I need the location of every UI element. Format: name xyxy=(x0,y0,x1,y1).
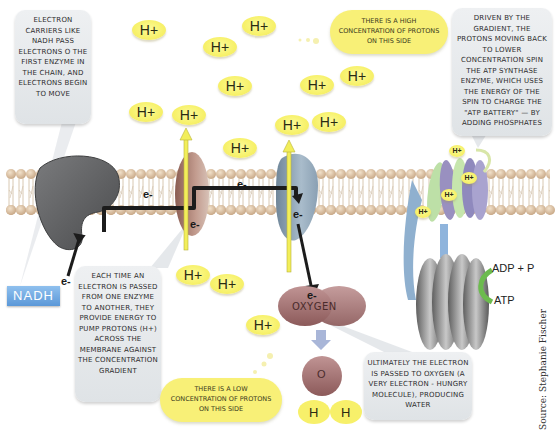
proton-ion: H+ xyxy=(172,105,206,125)
proton-ion: H+ xyxy=(340,66,374,86)
electron-label: e- xyxy=(237,178,247,190)
electron-label: e- xyxy=(293,208,303,220)
cloud-text: There is a low concentration of protons … xyxy=(171,385,272,413)
adp-p-label: ADP + P xyxy=(492,262,534,274)
proton-ion: H+ xyxy=(312,112,346,132)
proton-ion: H+ xyxy=(242,16,276,36)
callout-text: Each time an electron is passed from one… xyxy=(78,272,158,375)
cloud-high-concentration: There is a high concentration of protons… xyxy=(330,10,448,54)
electron-label: e- xyxy=(190,218,200,230)
water-oxygen-label: O xyxy=(317,368,326,380)
proton-ion: H+ xyxy=(176,265,210,285)
callout-text: Driven by the gradient, the protons movi… xyxy=(457,14,547,127)
proton-ion: H+ xyxy=(300,75,334,95)
proton-ion: H+ xyxy=(203,37,237,57)
proton-ion-small: H+ xyxy=(415,206,431,218)
callout-proton-pumping: Each time an electron is passed from one… xyxy=(75,266,161,402)
proton-ion-small: H+ xyxy=(449,145,465,157)
proton-channel-1 xyxy=(184,138,188,250)
proton-ion: H+ xyxy=(210,274,244,294)
proton-ion: H+ xyxy=(218,76,252,96)
electron-label: e- xyxy=(143,188,153,200)
electron-label: e- xyxy=(307,289,317,301)
cloud-low-concentration: There is a low concentration of protons … xyxy=(160,378,282,422)
callout-text: Electron carriers like NADH pass electro… xyxy=(18,16,87,98)
oxygen-label: Oxygen xyxy=(292,301,337,312)
water-hydrogen-label: H xyxy=(309,405,318,420)
proton-ion: H+ xyxy=(132,20,166,40)
cloud-text: There is a high concentration of protons… xyxy=(339,17,440,45)
water-hydrogen-label: H xyxy=(341,405,350,420)
proton-ion-small: H+ xyxy=(441,189,457,201)
proton-ion: H+ xyxy=(223,138,257,158)
proton-ion: H+ xyxy=(246,315,280,335)
atp-label: ATP xyxy=(494,294,515,306)
callout-text: Ultimately the electron is passed to oxy… xyxy=(367,359,468,409)
proton-ion-small: H+ xyxy=(461,172,477,184)
callout-oxygen-water: Ultimately the electron is passed to oxy… xyxy=(364,352,472,420)
callout-nadh-carriers: Electron carriers like NADH pass electro… xyxy=(15,10,91,124)
source-credit: Source: Stephanie Fischer xyxy=(538,309,548,430)
callout-atp-synthase: Driven by the gradient, the protons movi… xyxy=(452,8,552,136)
electron-label: e- xyxy=(61,275,71,287)
proton-channel-2 xyxy=(287,150,291,272)
nadh-label: NADH xyxy=(7,286,60,306)
proton-ion: H+ xyxy=(275,115,309,135)
proton-ion: H+ xyxy=(129,102,163,122)
